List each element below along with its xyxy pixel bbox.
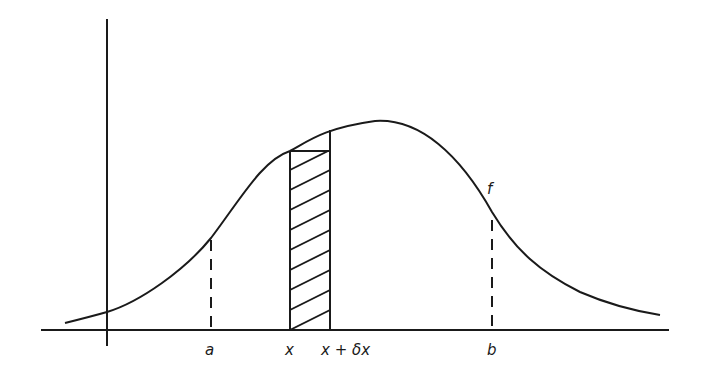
label-b: b (487, 341, 497, 359)
hatched-strip (290, 130, 330, 350)
label-x-plus-dx: x + δx (320, 341, 370, 359)
label-a: a (205, 341, 214, 359)
curve-f (65, 121, 660, 323)
diagram-canvas: f a x x + δx b (0, 0, 702, 391)
label-x: x (284, 341, 294, 359)
label-f: f (487, 180, 495, 198)
